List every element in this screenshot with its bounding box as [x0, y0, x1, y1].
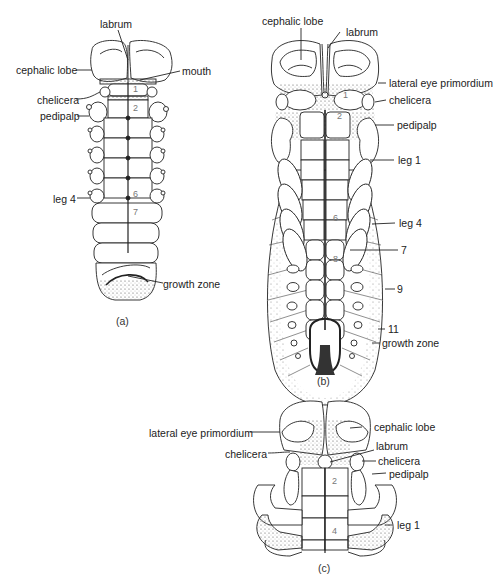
- label-c-chelicera-right: chelicera: [378, 455, 420, 467]
- label-b-cephalic-lobe: cephalic lobe: [262, 15, 323, 27]
- label-a-chelicera: chelicera: [37, 94, 79, 106]
- label-a-growth-zone: growth zone: [163, 278, 220, 290]
- label-c-chelicera-left: chelicera: [225, 448, 267, 460]
- label-c-cephalic-lobe: cephalic lobe: [374, 421, 435, 433]
- label-b-labrum: labrum: [346, 26, 378, 38]
- label-a-pedipalp: pedipalp: [40, 110, 80, 122]
- caption-c: (c): [318, 562, 330, 574]
- label-b-growth-zone: growth zone: [382, 337, 439, 349]
- label-b-segment-7: 7: [401, 244, 407, 256]
- label-c-labrum: labrum: [376, 440, 408, 452]
- segment-number: 1: [343, 90, 348, 100]
- label-a-leg4: leg 4: [53, 193, 76, 205]
- label-b-leg1: leg 1: [398, 154, 421, 166]
- segment-number: 1: [133, 84, 138, 94]
- label-c-lateral-eye-primordium: lateral eye primordium: [149, 427, 253, 439]
- label-a-mouth: mouth: [182, 65, 211, 77]
- panel-a-drawing: [76, 30, 180, 300]
- label-b-lateral-eye-primordium: lateral eye primordium: [389, 77, 493, 89]
- label-b-pedipalp: pedipalp: [397, 119, 437, 131]
- segment-number: 2: [133, 103, 138, 113]
- label-b-segment-9: 9: [397, 283, 403, 295]
- segment-number: 7: [133, 207, 138, 217]
- segment-number: 6: [333, 213, 338, 223]
- segment-number: 2: [332, 476, 337, 486]
- label-b-leg4: leg 4: [399, 217, 422, 229]
- label-c-leg1: leg 1: [397, 519, 420, 531]
- label-c-pedipalp: pedipalp: [389, 468, 429, 480]
- segment-number: 4: [332, 526, 337, 536]
- label-b-segment-11: 11: [388, 323, 399, 335]
- caption-a: (a): [116, 315, 129, 327]
- segment-number: 6: [133, 189, 138, 199]
- label-a-cephalic-lobe: cephalic lobe: [16, 64, 77, 76]
- label-b-chelicera: chelicera: [389, 94, 431, 106]
- caption-b: (b): [317, 375, 330, 387]
- segment-number: 8: [333, 254, 338, 264]
- label-a-labrum: labrum: [100, 18, 132, 30]
- segment-number: 2: [337, 111, 342, 121]
